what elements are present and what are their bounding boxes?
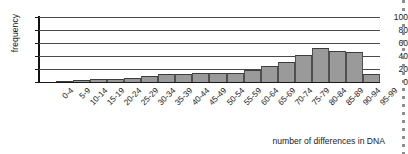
bar-slot xyxy=(192,17,209,82)
bar-slot xyxy=(261,17,278,82)
bar xyxy=(158,74,175,82)
x-tick-slot: 95-99 xyxy=(363,84,380,130)
x-tick-slot: 25-29 xyxy=(124,84,141,130)
x-tick-slot: 35-39 xyxy=(158,84,175,130)
x-axis-tick-labels: 0-45-910-1415-1920-2425-2930-3435-3940-4… xyxy=(39,84,380,130)
x-tick-slot: 75-79 xyxy=(295,84,312,130)
bar xyxy=(192,73,209,82)
x-tick-slot: 0-4 xyxy=(39,84,56,130)
bar xyxy=(175,74,192,82)
bar-slot xyxy=(90,17,107,82)
x-tick-slot: 15-19 xyxy=(90,84,107,130)
x-tick-slot: 10-14 xyxy=(73,84,90,130)
bar xyxy=(363,74,380,82)
bar xyxy=(329,51,346,82)
bar xyxy=(141,76,158,82)
bar xyxy=(244,70,261,82)
x-tick-slot: 80-84 xyxy=(312,84,329,130)
x-tick-slot: 50-54 xyxy=(210,84,227,130)
bar-slot xyxy=(39,17,56,82)
bar xyxy=(278,62,295,82)
histogram-figure: frequency 020406080100 0-45-910-1415-192… xyxy=(0,0,408,154)
bar-slot xyxy=(209,17,226,82)
bar xyxy=(124,78,141,82)
plot-area xyxy=(39,17,380,82)
bar-slot xyxy=(124,17,141,82)
bar-slot xyxy=(329,17,346,82)
bar-slot xyxy=(295,17,312,82)
bar-slot xyxy=(227,17,244,82)
x-tick-slot: 30-34 xyxy=(141,84,158,130)
x-tick-slot: 40-44 xyxy=(175,84,192,130)
x-tick-slot: 85-89 xyxy=(329,84,346,130)
bar-slot xyxy=(244,17,261,82)
x-tick-slot: 65-69 xyxy=(261,84,278,130)
bar-slot xyxy=(346,17,363,82)
bar xyxy=(56,81,73,82)
bar xyxy=(107,79,124,82)
bar-slot xyxy=(141,17,158,82)
bar-slot xyxy=(278,17,295,82)
bar xyxy=(295,55,312,82)
x-tick-slot: 70-74 xyxy=(278,84,295,130)
bar xyxy=(346,52,363,82)
bar-slot xyxy=(158,17,175,82)
bar-series xyxy=(39,17,380,82)
x-axis-title: number of differences in DNA xyxy=(180,136,385,146)
bar xyxy=(227,73,244,82)
x-tick-slot: 55-59 xyxy=(227,84,244,130)
bar-slot xyxy=(73,17,90,82)
bar xyxy=(209,73,226,82)
bar xyxy=(312,48,329,82)
x-tick-slot: 45-49 xyxy=(192,84,209,130)
y-axis-title: frequency xyxy=(10,0,20,69)
bar-slot xyxy=(312,17,329,82)
x-tick-slot: 60-64 xyxy=(244,84,261,130)
bar-slot xyxy=(56,17,73,82)
page-edge-dotted-rule xyxy=(402,0,405,154)
bar-slot xyxy=(107,17,124,82)
bar xyxy=(73,80,90,82)
bar-slot xyxy=(175,17,192,82)
bar-slot xyxy=(363,17,380,82)
bar xyxy=(90,79,107,82)
x-tick-slot: 20-24 xyxy=(107,84,124,130)
bar xyxy=(261,66,278,82)
x-tick-slot: 5-9 xyxy=(56,84,73,130)
x-tick-slot: 90-94 xyxy=(346,84,363,130)
